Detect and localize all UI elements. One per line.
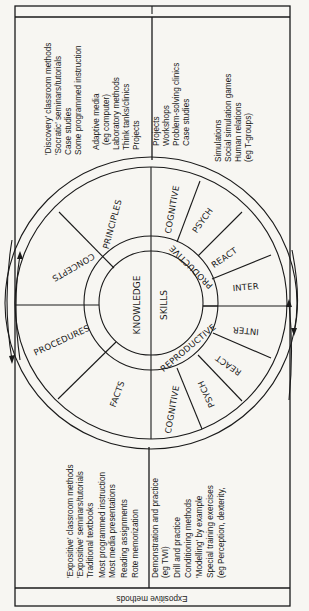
segment-principles: PRINCIPLES	[101, 198, 124, 250]
method-item: Workshops	[162, 105, 171, 146]
header-label: Expositive methods	[117, 594, 188, 603]
method-item: Simulations	[214, 120, 223, 162]
method-item: Laboratory methods	[112, 77, 121, 150]
method-item: Human relations	[234, 102, 243, 162]
spoke-rep-psych-cog	[177, 368, 202, 429]
method-item: Adaptive media	[92, 93, 101, 150]
segment-reproductive-psych: PSYCH	[196, 379, 217, 409]
cycle-arrows-right-icon	[286, 250, 298, 400]
method-item: Conditioning methods	[184, 499, 193, 578]
segment-facts: FACTS	[108, 379, 127, 408]
method-item: Most programmed instruction	[98, 472, 107, 578]
method-item: (eg TWI)	[161, 546, 170, 578]
top-left-method-list: 'Discovery' classroom methods 'Socratic'…	[44, 43, 141, 155]
bottom-right-method-list: Demonstration and practice (eg TWI) Dril…	[151, 477, 226, 578]
segment-reproductive-inter: INTER	[232, 325, 259, 337]
method-item: Demonstration and practice	[151, 477, 160, 578]
method-item: (eg Perception, dexterity,	[217, 488, 226, 578]
segment-productive-inter: INTER	[232, 281, 259, 293]
method-item: Most media presentations	[108, 484, 117, 578]
method-item: 'Expositive' seminars/tutorials	[76, 471, 85, 578]
spoke-procedures-facts	[58, 342, 116, 399]
segment-reproductive-cognitive: COGNITIVE	[163, 385, 181, 435]
method-item: Rote memorization	[131, 509, 140, 578]
method-item: Social simulation games	[224, 74, 233, 162]
wheel: KNOWLEDGE SKILLS PRODUCTIVE REPRODUCTIVE…	[5, 157, 297, 449]
spoke-rep-inter-react	[213, 333, 271, 358]
segment-productive-psych: PSYCH	[190, 206, 215, 235]
method-item: Traditional textbooks	[86, 503, 95, 578]
method-item: Projects	[132, 120, 141, 150]
method-item: Special training exercises	[206, 485, 215, 578]
method-item: 'Socratic' seminars/tutorials	[54, 56, 63, 155]
core-label-knowledge: KNOWLEDGE	[132, 275, 142, 334]
method-item: Drill and practice	[173, 517, 182, 578]
method-item: Problem-solving clinics	[172, 63, 181, 146]
method-item: 'Modelling' by example	[195, 495, 204, 578]
method-item: (eg computer)	[102, 94, 111, 145]
segment-procedures: PROCEDURES	[32, 323, 91, 358]
method-item: Think tanks/clinics	[122, 84, 131, 150]
method-item: 'Expositive' classroom methods	[66, 464, 75, 578]
segment-reproductive-react: REACT	[213, 353, 243, 378]
method-item: Projects	[152, 116, 161, 146]
segment-productive-cognitive: COGNITIVE	[163, 185, 181, 235]
bottom-left-method-list: 'Expositive' classroom methods 'Expositi…	[66, 464, 140, 578]
method-item: 'Discovery' classroom methods	[44, 43, 53, 155]
method-item: Some programmed instruction	[74, 45, 83, 155]
segment-concepts: CONCEPTS	[50, 251, 96, 283]
segment-productive-react: REACT	[210, 245, 240, 270]
method-item: Reading assignments	[120, 499, 129, 578]
core-label-skills: SKILLS	[159, 290, 169, 320]
learning-methods-wheel-diagram: Expositive methods KNOWLEDGE SKILLS PROD…	[0, 0, 309, 611]
method-item: (eg T-groups)	[244, 113, 253, 162]
method-item: Case studies	[64, 108, 73, 155]
top-right-method-list: Projects Workshops Problem-solving clini…	[152, 63, 253, 162]
method-item: Case studies	[182, 99, 191, 146]
